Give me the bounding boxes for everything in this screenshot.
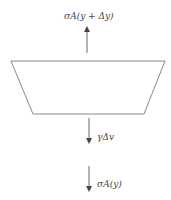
diagram-canvas [0,0,171,200]
weight-label: γΔv [97,133,114,142]
bottom-force-label: σA(y) [97,180,122,189]
trapezoid-body [11,61,165,114]
top-force-label: σA(y + Δy) [64,12,114,21]
